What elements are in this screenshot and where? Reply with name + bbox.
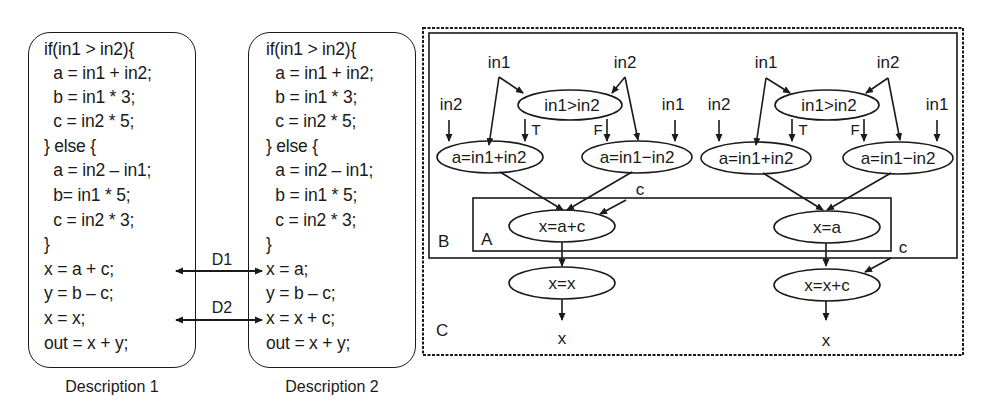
graph-2-labels: in1 in2 in2 in1 in1>in2 T F a=in1+in2 a=… — [708, 53, 949, 350]
input-in2-label: in2 — [708, 95, 731, 114]
else-node-label: a=in1−in2 — [600, 148, 675, 167]
region-c-box — [423, 28, 963, 355]
condition-label: in1>in2 — [544, 96, 599, 115]
input-in1-label: in1 — [662, 95, 685, 114]
c-input-label: c — [636, 180, 645, 199]
d1-label: D1 — [212, 251, 233, 268]
output-label: x — [558, 329, 567, 348]
condition-label: in1>in2 — [801, 96, 856, 115]
d2-label: D2 — [212, 299, 233, 316]
c-input-label: c — [899, 238, 908, 257]
region-b-label: B — [438, 232, 449, 251]
final-node-label: x=x — [549, 274, 576, 293]
input-in1-label: in1 — [488, 53, 511, 72]
region-a-label: A — [481, 230, 493, 249]
merge-node-label: x=a+c — [539, 217, 586, 236]
false-label: F — [593, 121, 602, 138]
input-in2-label: in2 — [877, 53, 900, 72]
region-c-label: C — [436, 321, 448, 340]
output-label: x — [822, 331, 831, 350]
difference-d2: D2 — [176, 299, 262, 320]
false-label: F — [850, 121, 859, 138]
merge-node-label: x=a — [813, 218, 841, 237]
diagram-canvas: D1 D2 B A C — [0, 0, 992, 418]
true-label: T — [798, 121, 807, 138]
input-in2-label: in2 — [614, 53, 637, 72]
input-in1-label: in1 — [926, 95, 949, 114]
true-label: T — [531, 121, 540, 138]
final-node-label: x=x+c — [804, 276, 850, 295]
input-in1-label: in1 — [755, 53, 778, 72]
then-node-label: a=in1+in2 — [719, 149, 794, 168]
then-node-label: a=in1+in2 — [452, 148, 527, 167]
input-in2-label: in2 — [440, 95, 463, 114]
difference-d1: D1 — [176, 251, 262, 271]
else-node-label: a=in1−in2 — [861, 149, 936, 168]
